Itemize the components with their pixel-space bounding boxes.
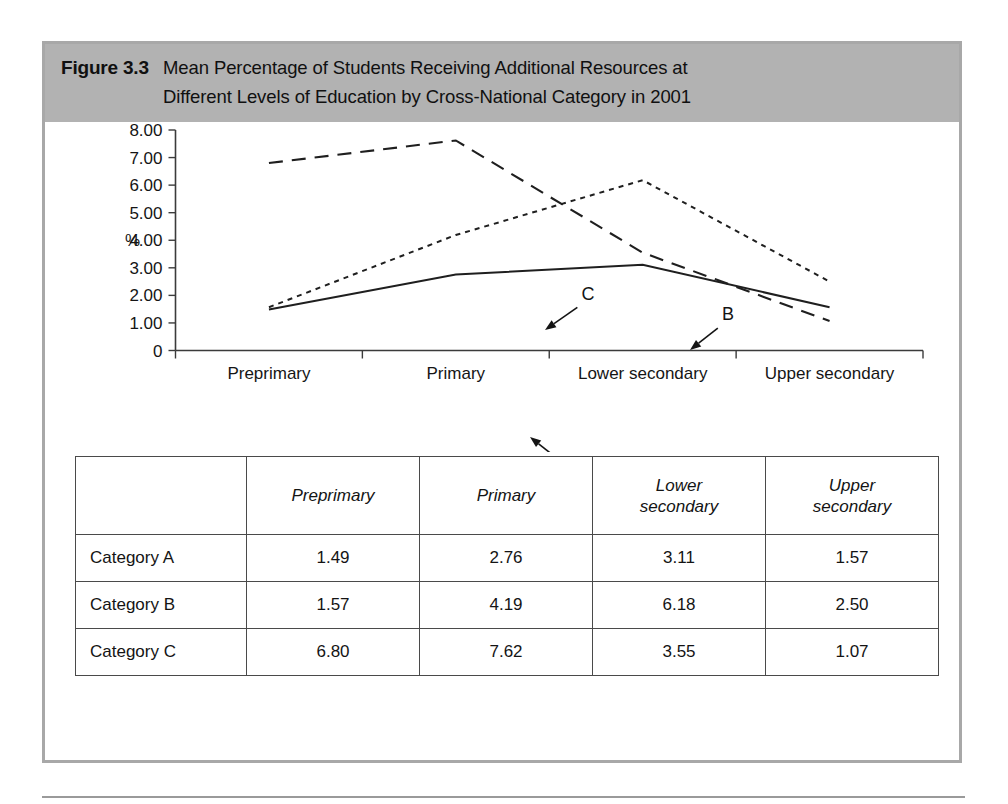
table-cell-value: 1.57 [766, 535, 939, 582]
col-header-line-1: Preprimary [291, 486, 374, 505]
x-axis-tick-label: Primary [427, 364, 486, 383]
table-cell-value: 2.50 [766, 582, 939, 629]
y-axis-unit-label: % [125, 231, 140, 250]
series-annotation-label-b: B [722, 304, 734, 324]
table-body: Category A1.492.763.111.57Category B1.57… [76, 535, 939, 676]
series-line-a [269, 265, 830, 310]
col-header-line-1: Upper [829, 476, 875, 495]
table-cell-value: 6.80 [247, 629, 420, 676]
y-axis-tick-label: 3.00 [129, 259, 162, 278]
table-col-header-primary: Primary [420, 457, 593, 535]
col-header-line-1: Primary [477, 486, 536, 505]
y-axis-ticks [169, 130, 176, 351]
table-cell-value: 3.11 [593, 535, 766, 582]
table-row-label: Category C [76, 629, 247, 676]
data-table-container: Preprimary Primary Lower secondary Upper… [75, 456, 938, 676]
figure-title-line-1: Mean Percentage of Students Receiving Ad… [163, 53, 937, 82]
table-col-header-upper-secondary: Upper secondary [766, 457, 939, 535]
table-cell-value: 6.18 [593, 582, 766, 629]
figure-title: Mean Percentage of Students Receiving Ad… [163, 53, 959, 111]
x-axis-ticks [176, 351, 924, 359]
table-header: Preprimary Primary Lower secondary Upper… [76, 457, 939, 535]
annotation-arrow-shaft-a [539, 444, 558, 452]
annotation-arrow-head-b [690, 340, 701, 350]
figure-caption-band: Figure 3.3 Mean Percentage of Students R… [45, 44, 959, 122]
y-axis-tick-label: 2.00 [129, 286, 162, 305]
table-cell-value: 3.55 [593, 629, 766, 676]
line-chart: 8.007.006.005.004.003.002.001.000 % Prep… [45, 122, 959, 452]
table-cell-value: 1.49 [247, 535, 420, 582]
table-cell-value: 1.07 [766, 629, 939, 676]
y-axis-tick-label: 0 [153, 342, 162, 361]
col-header-line-1: Lower [656, 476, 702, 495]
annotation-arrow-shaft-c [554, 307, 577, 323]
y-axis-tick-label: 5.00 [129, 204, 162, 223]
y-axis-tick-label: 7.00 [129, 149, 162, 168]
annotation-arrow-head-a [530, 437, 541, 447]
series-annotation-label-a: A [562, 451, 574, 452]
table-row-label: Category A [76, 535, 247, 582]
table-cell-value: 1.57 [247, 582, 420, 629]
data-table: Preprimary Primary Lower secondary Upper… [75, 456, 939, 676]
annotation-arrow-head-c [545, 320, 556, 330]
table-cell-value: 7.62 [420, 629, 593, 676]
figure-content-panel: 8.007.006.005.004.003.002.001.000 % Prep… [45, 122, 959, 760]
table-row: Category A1.492.763.111.57 [76, 535, 939, 582]
table-cell-value: 4.19 [420, 582, 593, 629]
x-axis-tick-label: Preprimary [227, 364, 311, 383]
table-row-label: Category B [76, 582, 247, 629]
figure-title-line-2: Different Levels of Education by Cross-N… [163, 82, 937, 111]
table-row: Category B1.574.196.182.50 [76, 582, 939, 629]
annotation-arrow-shaft-b [699, 328, 718, 343]
series-annotation-label-c: C [582, 284, 595, 304]
y-axis-tick-label: 8.00 [129, 122, 162, 140]
page-bottom-rule [42, 796, 965, 798]
y-axis-tick-label: 1.00 [129, 314, 162, 333]
figure-container: Figure 3.3 Mean Percentage of Students R… [42, 41, 962, 763]
chart-svg: 8.007.006.005.004.003.002.001.000 % Prep… [45, 122, 959, 452]
x-axis-tick-labels: PreprimaryPrimaryLower secondaryUpper se… [227, 364, 894, 383]
table-col-header-lower-secondary: Lower secondary [593, 457, 766, 535]
table-header-row: Preprimary Primary Lower secondary Upper… [76, 457, 939, 535]
chart-series-group [269, 140, 830, 321]
table-col-header-preprimary: Preprimary [247, 457, 420, 535]
figure-number: Figure 3.3 [45, 53, 163, 82]
col-header-line-2: secondary [813, 497, 891, 516]
x-axis-tick-label: Upper secondary [765, 364, 895, 383]
y-axis-tick-label: 6.00 [129, 176, 162, 195]
table-corner-cell [76, 457, 247, 535]
col-header-line-2: secondary [640, 497, 718, 516]
table-row: Category C6.807.623.551.07 [76, 629, 939, 676]
table-cell-value: 2.76 [420, 535, 593, 582]
x-axis-tick-label: Lower secondary [578, 364, 708, 383]
